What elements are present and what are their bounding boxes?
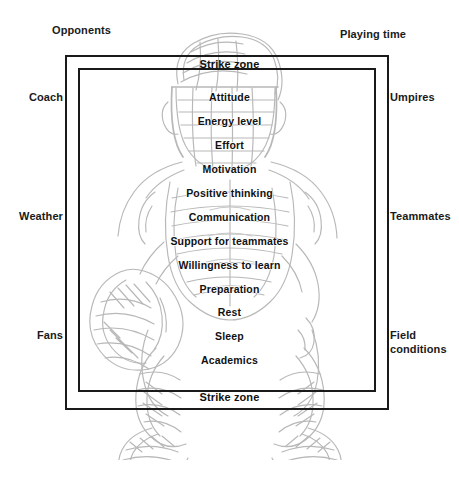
inner-factor-label: Motivation [203, 163, 257, 175]
inner-factor-energy-level: Energy level [0, 115, 459, 127]
external-factor-umpires: Umpires [390, 91, 435, 105]
external-factor-fans: Fans [0, 329, 63, 343]
inner-factor-label: Support for teammates [170, 235, 288, 247]
inner-factor-rest: Rest [0, 306, 459, 318]
inner-factor-label: Willingness to learn [178, 259, 280, 271]
external-factor-field-conditions: Field conditions [390, 329, 447, 356]
inner-factor-positive-thinking: Positive thinking [0, 187, 459, 199]
inner-factor-support-for-teammates: Support for teammates [0, 235, 459, 247]
strike-zone-top-label: Strike zone [0, 58, 459, 70]
inner-factor-label: Academics [201, 354, 258, 366]
inner-factor-label: Positive thinking [186, 187, 273, 199]
strike-zone-bottom-label: Strike zone [0, 391, 459, 403]
external-factor-opponents: Opponents [52, 24, 111, 38]
inner-factor-motivation: Motivation [0, 163, 459, 175]
inner-factor-label: Preparation [200, 283, 260, 295]
inner-factor-label: Sleep [215, 330, 244, 342]
inner-factor-label: Rest [218, 306, 241, 318]
inner-factor-preparation: Preparation [0, 283, 459, 295]
inner-factor-label: Communication [189, 211, 270, 223]
inner-factor-label: Energy level [198, 115, 262, 127]
external-factor-teammates: Teammates [390, 210, 451, 224]
inner-factor-label: Effort [215, 139, 244, 151]
external-factor-weather: Weather [0, 210, 63, 224]
inner-factor-effort: Effort [0, 139, 459, 151]
figure-canvas: Strike zone Strike zone Attitude Energy … [0, 0, 459, 478]
inner-factor-willingness-to-learn: Willingness to learn [0, 259, 459, 271]
external-factor-coach: Coach [0, 91, 63, 105]
inner-factor-label: Attitude [209, 91, 250, 103]
external-factor-playing-time: Playing time [340, 28, 406, 42]
